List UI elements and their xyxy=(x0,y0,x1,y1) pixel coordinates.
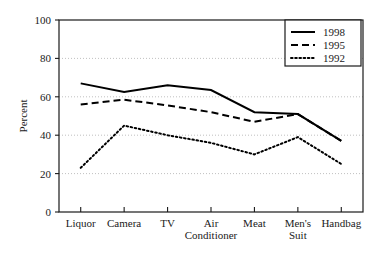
svg-text:Percent: Percent xyxy=(17,100,29,133)
y-tick-label: 80 xyxy=(40,52,52,64)
x-axis-label: Liquor xyxy=(66,217,96,229)
y-tick-label: 0 xyxy=(46,206,52,218)
legend-label-1995: 1995 xyxy=(323,39,346,51)
y-axis-title: Percent xyxy=(17,100,29,133)
y-tick-label: 40 xyxy=(40,129,52,141)
y-tick-label: 60 xyxy=(40,91,52,103)
x-axis-label: Men's xyxy=(285,217,311,229)
legend-label-1998: 1998 xyxy=(323,26,346,38)
legend: 199819951992 xyxy=(285,20,361,66)
x-axis-label: Conditioner xyxy=(185,229,238,241)
y-tick-label: 100 xyxy=(35,14,52,26)
x-axis-label: TV xyxy=(160,217,175,229)
y-tick-label: 20 xyxy=(40,168,52,180)
x-axis-label: Camera xyxy=(107,217,141,229)
line-chart: 020406080100 LiquorCameraTVAirConditione… xyxy=(0,0,390,259)
x-axis-label: Suit xyxy=(289,229,307,241)
legend-label-1992: 1992 xyxy=(323,52,345,64)
x-axis-label: Handbag xyxy=(321,217,361,229)
chart-container: 020406080100 LiquorCameraTVAirConditione… xyxy=(0,0,390,259)
x-axis-label: Air xyxy=(204,217,219,229)
x-axis-label: Meat xyxy=(243,217,266,229)
